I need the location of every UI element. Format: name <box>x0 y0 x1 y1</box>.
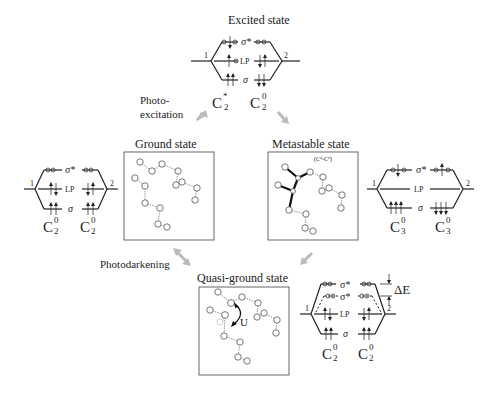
svg-text:3: 3 <box>401 226 406 236</box>
svg-text:σ*: σ* <box>340 279 350 290</box>
excited-state-diagram: Excited state σ* LP σ 1 2 C * 2 <box>191 13 300 112</box>
u-label: U <box>240 316 248 328</box>
svg-text:3: 3 <box>446 226 451 236</box>
svg-text:2: 2 <box>466 179 470 188</box>
photodarkening-diagram: Excited state σ* LP σ 1 2 C * 2 <box>0 0 498 394</box>
svg-text:1: 1 <box>372 179 376 188</box>
svg-text:2: 2 <box>262 102 267 112</box>
svg-text:0: 0 <box>446 215 451 225</box>
svg-text:σ*: σ* <box>416 164 426 175</box>
svg-text:LP: LP <box>414 185 424 194</box>
ground-state-title: Ground state <box>135 137 197 151</box>
quasi-ground-state-panel: Quasi-ground state <box>197 271 289 375</box>
ground-state-panel: Ground state <box>124 137 214 240</box>
svg-text:σ*: σ* <box>65 164 75 175</box>
svg-text:0: 0 <box>91 215 96 225</box>
svg-text:C: C <box>390 219 400 235</box>
sigma-label: σ <box>243 74 249 85</box>
svg-text:C: C <box>358 346 368 362</box>
svg-text:σ: σ <box>343 328 349 339</box>
svg-text:0: 0 <box>369 342 374 352</box>
svg-text:σ*: σ* <box>340 291 350 302</box>
svg-text:1: 1 <box>305 304 309 313</box>
metastable-state-levels: σ* LP σ 1 2 C 0 3 C 0 3 <box>367 163 474 236</box>
svg-text:0: 0 <box>333 342 338 352</box>
svg-text:σ: σ <box>68 203 74 214</box>
arrow-up-right-icon <box>196 110 208 121</box>
svg-text:0: 0 <box>262 91 267 101</box>
lp-label: LP <box>240 57 250 66</box>
svg-text:σ: σ <box>418 202 424 213</box>
svg-text:LP: LP <box>340 310 350 319</box>
arrow-down-right-icon <box>278 112 289 124</box>
quasi-ground-state-title: Quasi-ground state <box>197 271 288 285</box>
site-2-label: 2 <box>284 51 288 60</box>
svg-text:C: C <box>322 346 332 362</box>
svg-text:*: * <box>223 91 228 101</box>
svg-text:C: C <box>80 219 90 235</box>
svg-text:2: 2 <box>333 353 338 363</box>
svg-text:2: 2 <box>224 102 229 112</box>
svg-text:1: 1 <box>30 179 34 188</box>
svg-text:C: C <box>43 219 53 235</box>
sigma-star-label: σ* <box>241 36 251 47</box>
c-left-label: C <box>212 95 222 111</box>
svg-text:0: 0 <box>54 215 59 225</box>
arrow-bidirectional-icon <box>173 248 191 266</box>
svg-text:2: 2 <box>54 226 59 236</box>
svg-text:0: 0 <box>401 215 406 225</box>
site-1-label: 1 <box>204 51 208 60</box>
excited-state-title: Excited state <box>228 13 290 27</box>
quasi-ground-state-levels: ΔE σ* σ* LP σ 1 2 C 0 2 C 0 2 <box>300 274 410 363</box>
arrow-down-left-icon <box>300 253 312 265</box>
svg-text:2: 2 <box>91 226 96 236</box>
photoexcitation-label-1: Photo- <box>140 94 170 106</box>
svg-text:LP: LP <box>65 185 75 194</box>
c-right-label: C <box>250 95 260 111</box>
delta-e-label: ΔE <box>394 282 410 297</box>
svg-text:2: 2 <box>387 304 391 313</box>
metastable-state-panel: Metastable state (C⁰-C⁰) <box>268 137 358 240</box>
ground-state-levels: σ* LP σ 1 2 C 0 2 C 0 2 <box>24 164 118 236</box>
photodarkening-label: Photodarkening <box>100 258 170 270</box>
svg-text:2: 2 <box>110 179 114 188</box>
svg-text:2: 2 <box>369 353 374 363</box>
metastable-annotation: (C⁰-C⁰) <box>314 156 332 163</box>
svg-text:C: C <box>435 219 445 235</box>
metastable-state-title: Metastable state <box>272 137 350 151</box>
photoexcitation-label-2: excitation <box>140 108 184 120</box>
